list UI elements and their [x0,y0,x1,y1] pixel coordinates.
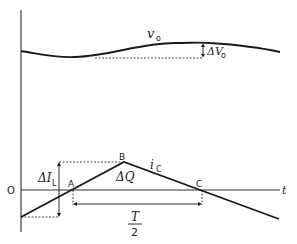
delta-q-label: ΔQ [115,170,135,184]
delta-il-label: ΔI [37,171,52,185]
half-period-numerator: T [131,210,140,224]
vo-curve [21,43,280,58]
delta-vo-arrowhead-up [201,44,205,48]
delta-il-subscript: L [52,179,57,188]
ic-label: i [150,158,154,172]
t-axis-label: t [282,184,287,197]
delta-vo-subscript: o [221,51,226,60]
delta-il-arrowhead-up [57,162,61,166]
point-a-label: A [68,179,75,189]
delta-vo-arrowhead-down [201,54,205,58]
half-period-denominator: 2 [131,226,138,239]
half-period-arrowhead-right [198,202,202,206]
ripple-diagram: v o ΔV o O t ΔI L A B C ΔQ i C T 2 [0,0,297,244]
delta-il-arrowhead-down [57,213,61,217]
vo-subscript: o [156,34,161,43]
origin-label: O [7,185,15,196]
point-c-label: C [196,179,202,189]
half-period-arrowhead-left [73,202,77,206]
ic-subscript: C [156,165,162,174]
vo-label: v [147,26,155,41]
point-b-label: B [119,152,125,162]
